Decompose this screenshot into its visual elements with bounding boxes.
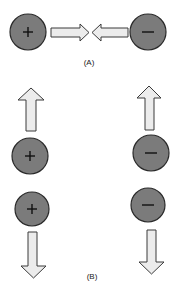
electric-charge-diagram: (A) (B) <box>0 0 176 293</box>
panel-b-label: (B) <box>87 272 98 281</box>
arrow-up-icon <box>18 88 44 131</box>
arrow-down-icon <box>139 230 164 274</box>
arrow-left-icon <box>92 24 128 41</box>
panel-a: (A) <box>10 14 166 67</box>
panel-b: (B) <box>12 86 169 281</box>
panel-a-label: (A) <box>84 58 95 67</box>
arrow-up-icon <box>137 86 161 130</box>
arrow-right-icon <box>51 24 89 41</box>
arrow-down-icon <box>21 232 46 278</box>
